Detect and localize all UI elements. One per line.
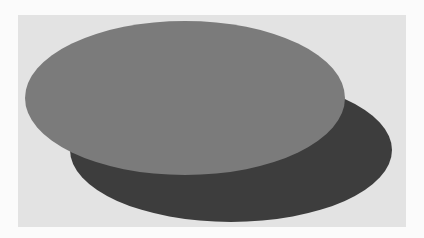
ellipses-scene (0, 0, 424, 238)
image-canvas (0, 0, 424, 238)
light-ellipse (25, 21, 345, 175)
